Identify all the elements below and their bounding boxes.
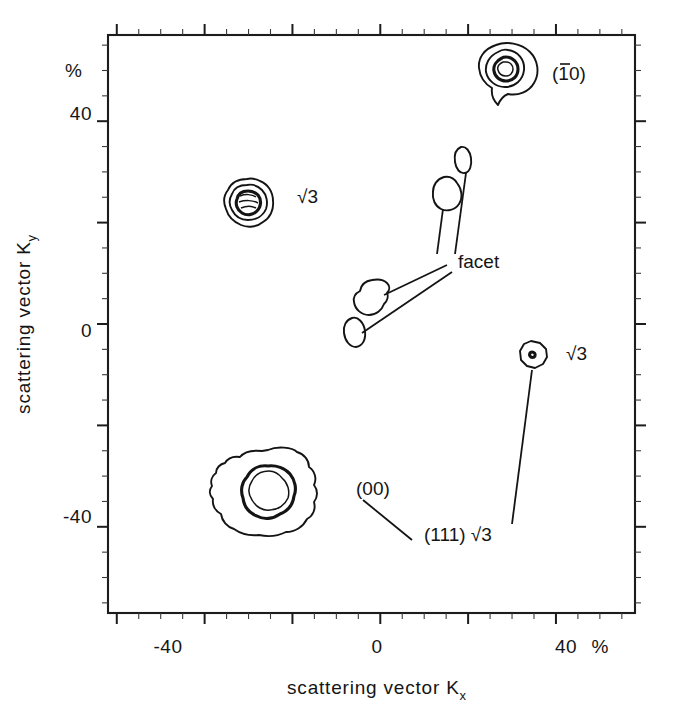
y-axis-unit-label: % <box>65 60 82 81</box>
annot-spot-111-sqrt3: (111) √3 <box>424 524 492 545</box>
annotation-labels: (10) √3 facet √3 (00) (111) √3 <box>297 63 587 545</box>
annot-1bar0-text: (10) <box>552 63 586 84</box>
leader-facet-lower-mid <box>384 265 447 295</box>
leader-facet-upper-mid <box>437 209 443 254</box>
y-axis-tick-label-neg40: -40 <box>63 506 92 527</box>
axis-titles: scattering vector Kx scattering vector K… <box>13 234 467 703</box>
axis-ticks <box>97 24 646 624</box>
y-axis-tick-label-0: 0 <box>81 320 92 341</box>
axis-tick-labels: % 40 0 -40 -40 0 40 % <box>63 60 609 657</box>
annot-facet: facet <box>458 251 500 272</box>
x-axis-unit-label: % <box>592 636 609 657</box>
spot-1bar0-contours <box>479 43 538 105</box>
contour-figure: (10) √3 facet √3 (00) (111) √3 % 40 0 -4… <box>0 0 674 709</box>
spot-111-sqrt3-core <box>530 352 536 358</box>
annot-sqrt3-upper-left: √3 <box>297 186 318 207</box>
y-axis-title-subscript: y <box>24 234 39 241</box>
spot-00-core-ring <box>249 471 289 510</box>
annot-spot-00: (00) <box>356 478 390 499</box>
spot-00-outer <box>210 448 317 536</box>
spot-facet-upper <box>455 147 472 173</box>
spot-sqrt3-ul-hatch-2 <box>239 201 258 203</box>
x-axis-title-text: scattering vector K <box>287 677 460 698</box>
annot-sqrt3-right: √3 <box>566 343 587 364</box>
spot-111-sqrt3-outer <box>520 341 547 368</box>
leader-facet-upper <box>455 173 466 254</box>
spot-facet-upper-mid <box>433 177 462 211</box>
spot-00-contours <box>210 448 317 536</box>
spot-1bar0-core-ring <box>498 62 513 76</box>
spot-1bar0-outer <box>479 43 538 105</box>
leader-111-sqrt3 <box>512 370 532 524</box>
x-axis-tick-label-0: 0 <box>371 636 382 657</box>
leader-facet-lower <box>362 272 452 333</box>
y-axis-tick-label-40: 40 <box>70 103 92 124</box>
leader-00 <box>363 500 412 540</box>
annot-spot-1bar0: (10) <box>552 63 586 84</box>
x-axis-title-subscript: x <box>460 688 467 703</box>
spot-111-sqrt3-contours <box>520 341 547 368</box>
x-axis-tick-label-40: 40 <box>555 636 577 657</box>
x-axis-title: scattering vector Kx <box>287 677 467 703</box>
spot-sqrt3-ul-hatch-3 <box>241 207 256 209</box>
spot-facet-lower-mid <box>354 279 389 315</box>
spot-sqrt3-upper-left-contours <box>224 179 273 227</box>
y-axis-title-text: scattering vector K <box>13 241 34 414</box>
x-axis-tick-label-neg40: -40 <box>154 636 183 657</box>
contour-spots <box>210 43 547 536</box>
plot-frame <box>108 35 635 613</box>
spot-sqrt3-ul-hatch-1 <box>240 195 256 197</box>
y-axis-title: scattering vector Ky <box>13 234 39 414</box>
figure-canvas: (10) √3 facet √3 (00) (111) √3 % 40 0 -4… <box>0 0 674 709</box>
